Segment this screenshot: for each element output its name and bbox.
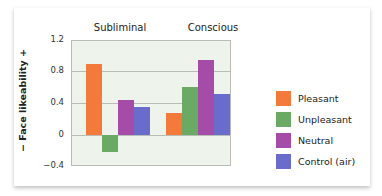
legend-item-control: Control (air) bbox=[276, 151, 355, 172]
bar-subliminal-unpleasant bbox=[102, 135, 118, 152]
y-tick-neg-0-4: −0.4 bbox=[24, 160, 64, 170]
bar-conscious-control bbox=[214, 94, 230, 135]
legend-swatch-control bbox=[276, 154, 291, 169]
legend-label-pleasant: Pleasant bbox=[298, 93, 339, 104]
legend-swatch-pleasant bbox=[276, 91, 291, 106]
legend-item-unpleasant: Unpleasant bbox=[276, 109, 355, 130]
legend-item-pleasant: Pleasant bbox=[276, 88, 355, 109]
bar-conscious-neutral bbox=[198, 60, 214, 135]
group-label-subliminal: Subliminal bbox=[85, 22, 155, 33]
y-tick-0: 0 bbox=[24, 129, 64, 139]
legend-label-control: Control (air) bbox=[298, 156, 355, 167]
legend-label-unpleasant: Unpleasant bbox=[298, 114, 352, 125]
y-tick-1-2: 1.2 bbox=[24, 34, 64, 44]
bar-conscious-pleasant bbox=[166, 113, 182, 135]
legend-label-neutral: Neutral bbox=[298, 135, 333, 146]
legend-item-neutral: Neutral bbox=[276, 130, 355, 151]
gridline-0 bbox=[72, 135, 230, 136]
bar-subliminal-neutral bbox=[118, 100, 134, 135]
y-tick-0-4: 0.4 bbox=[24, 97, 64, 107]
legend: Pleasant Unpleasant Neutral Control (air… bbox=[276, 88, 355, 172]
legend-swatch-neutral bbox=[276, 133, 291, 148]
group-label-conscious: Conscious bbox=[178, 22, 248, 33]
plot-area bbox=[71, 40, 231, 166]
bar-subliminal-control bbox=[134, 107, 150, 135]
y-tick-0-8: 0.8 bbox=[24, 65, 64, 75]
legend-swatch-unpleasant bbox=[276, 112, 291, 127]
bar-conscious-unpleasant bbox=[182, 87, 198, 135]
bar-subliminal-pleasant bbox=[86, 64, 102, 135]
